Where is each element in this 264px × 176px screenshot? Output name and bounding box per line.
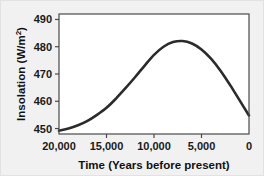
x-axis-tick-label: 15,000 (90, 140, 124, 152)
x-axis-tick-label: 20,000 (42, 140, 76, 152)
x-axis-tick-label: 0 (246, 140, 252, 152)
chart-figure: 450460470480490 20,00015,00010,0005,0000… (0, 0, 264, 176)
x-axis-ticks (107, 134, 202, 138)
y-axis-title-base: Insolation (W/m (15, 35, 27, 121)
plot-area-background (59, 14, 249, 134)
y-axis-tick-labels: 450460470480490 (34, 13, 52, 134)
svg-text:Insolation (W/m2): Insolation (W/m2) (14, 27, 27, 121)
y-axis-tick-label: 460 (34, 95, 52, 107)
x-axis-tick-labels: 20,00015,00010,0005,0000 (42, 140, 252, 152)
y-axis-title-close: ) (15, 27, 27, 31)
insolation-line-chart: 450460470480490 20,00015,00010,0005,0000… (1, 1, 264, 176)
y-axis-tick-label: 480 (34, 41, 52, 53)
x-axis-title: Time (Years before present) (78, 159, 229, 171)
y-axis-title: Insolation (W/m2) (14, 27, 27, 121)
y-axis-tick-label: 470 (34, 68, 52, 80)
y-axis-tick-label: 490 (34, 13, 52, 25)
x-axis-tick-label: 10,000 (137, 140, 171, 152)
y-axis-tick-label: 450 (34, 123, 52, 135)
x-axis-tick-label: 5,000 (188, 140, 216, 152)
